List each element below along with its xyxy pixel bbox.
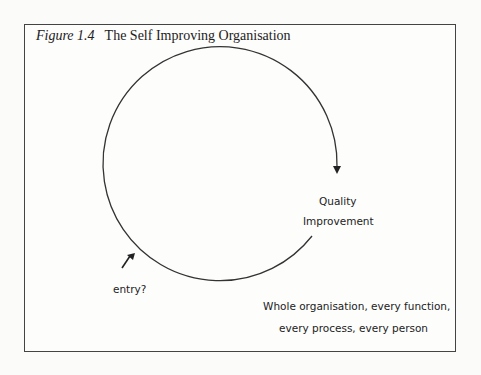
entry-arrow-shaft <box>122 256 130 268</box>
cycle-arc <box>103 47 337 281</box>
entry-label: entry? <box>113 283 146 295</box>
quality-label: Quality <box>319 195 357 207</box>
improvement-label: Improvement <box>303 215 374 227</box>
cycle-arrowhead-icon <box>333 166 341 174</box>
cycle-diagram <box>0 0 481 375</box>
scope-line-1: Whole organisation, every function, <box>263 300 450 312</box>
scope-line-2: every process, every person <box>279 322 428 334</box>
